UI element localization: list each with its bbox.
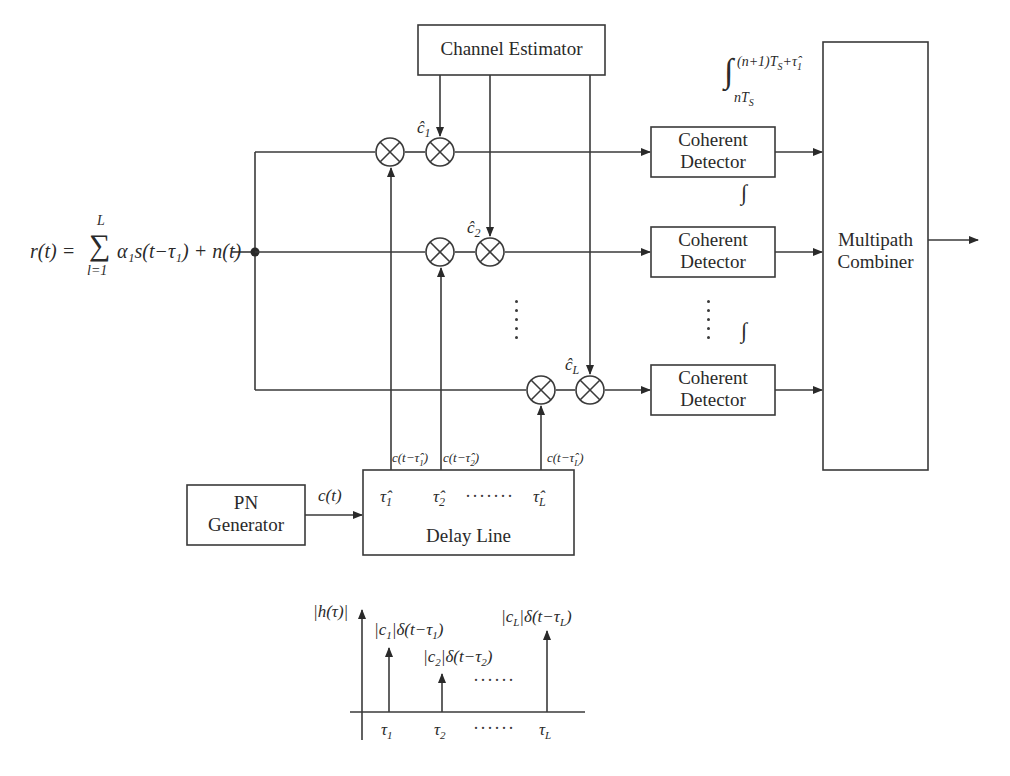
text: ) bbox=[566, 607, 572, 626]
text: |δ(t−τ bbox=[392, 620, 433, 639]
subscript: L bbox=[573, 363, 580, 377]
c-hat: ĉ bbox=[467, 218, 475, 237]
text: ) bbox=[579, 450, 583, 465]
text: ) bbox=[424, 450, 428, 465]
subscript: 1 bbox=[797, 61, 802, 72]
impulse-label-1: |c1|δ(t−τ1) bbox=[374, 620, 443, 641]
upper-tail: +τ̂ bbox=[783, 54, 797, 69]
pn-output-label: c(t) bbox=[318, 486, 342, 506]
label-line: Combiner bbox=[823, 251, 928, 273]
mixer-icon bbox=[576, 376, 604, 404]
subscript: 1 bbox=[425, 126, 431, 140]
label-line: Coherent bbox=[651, 229, 775, 251]
tau-tick-2: τ2 bbox=[434, 720, 446, 741]
tap-output-L: c(t−τ̂L) bbox=[547, 450, 584, 468]
text: |δ(t−τ bbox=[441, 647, 482, 666]
delay-tap-2: τ̂2 bbox=[433, 487, 445, 510]
label-line: Coherent bbox=[651, 129, 775, 151]
text: ) bbox=[438, 620, 444, 639]
subscript: 2 bbox=[440, 729, 446, 741]
coherent-detector-1-label: Coherent Detector bbox=[651, 129, 775, 173]
label-line: Detector bbox=[651, 151, 775, 173]
horizontal-ellipsis: ······· bbox=[465, 486, 514, 507]
multipath-combiner-label: Multipath Combiner bbox=[823, 229, 928, 273]
horizontal-ellipsis: ······ bbox=[473, 670, 515, 691]
integral-icon: ∫ bbox=[741, 318, 747, 344]
subscript: S bbox=[749, 97, 754, 108]
horizontal-ellipsis: ······ bbox=[473, 718, 515, 739]
delay-line-label: Delay Line bbox=[363, 525, 574, 547]
subscript: 2 bbox=[475, 226, 481, 240]
tap-output-2: c(t−τ̂2) bbox=[443, 450, 479, 468]
label-line: Multipath bbox=[823, 229, 928, 251]
text: |c bbox=[423, 647, 435, 666]
text: |c bbox=[501, 607, 513, 626]
coherent-detector-L-label: Coherent Detector bbox=[651, 367, 775, 411]
sum-upper: L bbox=[97, 213, 105, 229]
mixer-icon bbox=[426, 238, 454, 266]
sigma-symbol: ∑ bbox=[89, 228, 110, 262]
text: ) bbox=[475, 450, 479, 465]
mixer-icon bbox=[376, 138, 404, 166]
axis-label: |h(τ)| bbox=[313, 602, 348, 621]
label-line: Detector bbox=[651, 251, 775, 273]
input-rhs: α₁s(t−τ₁) + n(t) bbox=[117, 240, 241, 263]
text: |c bbox=[374, 620, 386, 639]
c-hat: ĉ bbox=[417, 118, 425, 137]
rake-receiver-diagram bbox=[0, 0, 1010, 776]
c-hat-L-label: ĉL bbox=[565, 355, 579, 378]
integral-upper: (n+1)TS+τ̂1 bbox=[737, 54, 802, 72]
text: c(t− bbox=[443, 450, 465, 465]
label-line: Detector bbox=[651, 389, 775, 411]
mixer-icon bbox=[476, 238, 504, 266]
text: ) bbox=[487, 647, 493, 666]
label-line: Coherent bbox=[651, 367, 775, 389]
vertical-ellipsis bbox=[707, 300, 711, 345]
input-lhs: r(t) = bbox=[30, 240, 75, 263]
vertical-ellipsis bbox=[515, 300, 519, 345]
upper-text: (n+1)T bbox=[737, 54, 778, 69]
tap-output-1: c(t−τ̂1) bbox=[392, 450, 428, 468]
coherent-detector-2-label: Coherent Detector bbox=[651, 229, 775, 273]
tau-tick-L: τL bbox=[539, 720, 551, 741]
input-bus bbox=[232, 152, 260, 390]
subscript: L bbox=[539, 495, 546, 509]
pn-generator-label: PN Generator bbox=[187, 492, 305, 536]
subscript: 1 bbox=[386, 495, 392, 509]
subscript: 1 bbox=[387, 729, 393, 741]
mixer-icon bbox=[426, 138, 454, 166]
integral-icon: ∫ bbox=[741, 180, 747, 206]
text: c(t− bbox=[547, 450, 569, 465]
c-hat-2-label: ĉ2 bbox=[467, 218, 481, 241]
channel-estimator-label: Channel Estimator bbox=[418, 38, 605, 60]
text: c(t− bbox=[392, 450, 414, 465]
delay-tap-L: τ̂L bbox=[533, 487, 546, 510]
delay-tap-1: τ̂1 bbox=[380, 487, 392, 510]
mixer-icon bbox=[527, 376, 555, 404]
subscript: 2 bbox=[439, 495, 445, 509]
c-hat: ĉ bbox=[565, 355, 573, 374]
label-line: Generator bbox=[187, 514, 305, 536]
sum-lower: l=1 bbox=[87, 263, 107, 279]
integral-lower: nTS bbox=[734, 90, 754, 108]
impulse-label-2: |c2|δ(t−τ2) bbox=[423, 647, 492, 668]
c-hat-1-label: ĉ1 bbox=[417, 118, 431, 141]
tau-tick-1: τ1 bbox=[381, 720, 393, 741]
text: |δ(t−τ bbox=[519, 607, 560, 626]
lower-text: nT bbox=[734, 90, 749, 105]
label-line: PN bbox=[187, 492, 305, 514]
integral-icon: ∫ bbox=[724, 52, 733, 90]
impulse-label-L: |cL|δ(t−τL) bbox=[501, 607, 572, 628]
impulse-axis-label: |h(τ)| bbox=[313, 602, 348, 622]
subscript: L bbox=[545, 729, 551, 741]
